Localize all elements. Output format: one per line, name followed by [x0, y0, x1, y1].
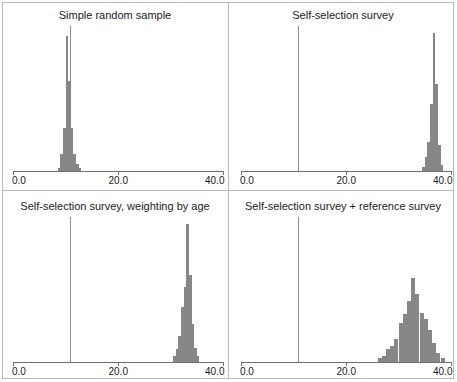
x-tick-label: 40.0 — [433, 175, 452, 186]
panel-self-selection-weighted-by-age: Self-selection survey, weighting by age … — [1, 191, 229, 382]
x-tick-label: 40.0 — [205, 175, 224, 186]
x-tick-label: 0.0 — [240, 175, 254, 186]
panel-title: Simple random sample — [1, 9, 229, 21]
x-tick-label: 40.0 — [433, 366, 452, 377]
plot-area — [13, 217, 223, 362]
panel-self-selection-plus-reference: Self-selection survey + reference survey… — [229, 191, 457, 382]
x-tick-label: 0.0 — [240, 366, 254, 377]
histogram-bars — [241, 217, 451, 362]
histogram-bars — [13, 217, 223, 362]
plot-area — [241, 26, 451, 171]
panel-simple-random-sample: Simple random sample 0.020.040.0 — [1, 0, 229, 191]
panel-title: Self-selection survey + reference survey — [229, 200, 457, 212]
histogram-figure: Simple random sample 0.020.040.0 Self-se… — [0, 0, 457, 382]
x-tick-label: 20.0 — [109, 175, 128, 186]
panel-title: Self-selection survey — [229, 9, 457, 21]
x-tick-label: 0.0 — [12, 366, 26, 377]
x-tick-label: 20.0 — [337, 366, 356, 377]
x-tick-label: 20.0 — [337, 175, 356, 186]
histogram-bars — [241, 26, 451, 171]
plot-area — [13, 26, 223, 171]
x-tick-label: 0.0 — [12, 175, 26, 186]
x-tick-label: 40.0 — [205, 366, 224, 377]
histogram-bars — [13, 26, 223, 171]
x-tick-label: 20.0 — [109, 366, 128, 377]
panel-self-selection-survey: Self-selection survey 0.020.040.0 — [229, 0, 457, 191]
panel-title: Self-selection survey, weighting by age — [1, 200, 229, 212]
plot-area — [241, 217, 451, 362]
